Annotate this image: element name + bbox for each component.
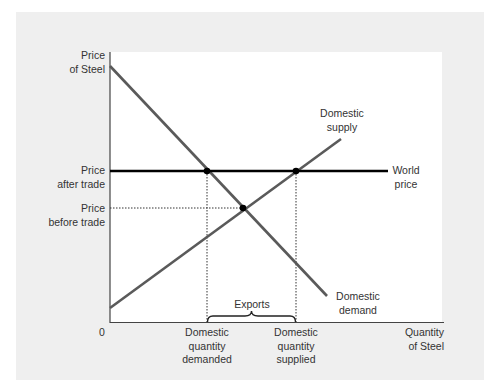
label-line: Domestic <box>310 107 374 121</box>
exports-label: Exports <box>222 298 282 312</box>
y-axis-label-line: Price <box>40 49 105 63</box>
domestic-demand-label: Domestic demand <box>328 290 388 317</box>
x-axis-label-line: of Steel <box>380 340 444 354</box>
y-axis-label-line: of Steel <box>40 63 105 77</box>
point-demand-world <box>204 168 211 175</box>
qd-label: Domestic quantity demanded <box>172 326 242 367</box>
qs-label: Domestic quantity supplied <box>261 326 331 367</box>
exports-brace <box>208 311 296 322</box>
label-line: before trade <box>30 216 105 230</box>
label-line: demanded <box>172 353 242 367</box>
x-axis-label: Quantity of Steel <box>380 326 444 353</box>
label-line: demand <box>328 304 388 318</box>
label-line: Domestic <box>261 326 331 340</box>
price-after-trade-label: Price after trade <box>30 164 105 191</box>
domestic-supply-label: Domestic supply <box>310 107 374 134</box>
world-price-label: World price <box>388 164 424 191</box>
label-line: World <box>388 164 424 178</box>
label-line: quantity <box>261 340 331 354</box>
domestic-demand-curve <box>110 66 327 296</box>
x-axis-label-line: Quantity <box>380 326 444 340</box>
origin-label: 0 <box>99 326 105 340</box>
label-line: supply <box>310 121 374 135</box>
label-line: after trade <box>30 178 105 192</box>
label-line: quantity <box>172 340 242 354</box>
y-axis-label: Price of Steel <box>40 49 105 76</box>
price-before-trade-label: Price before trade <box>30 202 105 229</box>
label-line: Price <box>30 202 105 216</box>
label-line: Domestic <box>172 326 242 340</box>
point-supply-world <box>293 168 300 175</box>
label-line: Price <box>30 164 105 178</box>
domestic-supply-curve <box>110 139 341 308</box>
label-line: price <box>388 178 424 192</box>
label-line: supplied <box>261 353 331 367</box>
point-equilibrium <box>240 205 247 212</box>
label-line: Domestic <box>328 290 388 304</box>
